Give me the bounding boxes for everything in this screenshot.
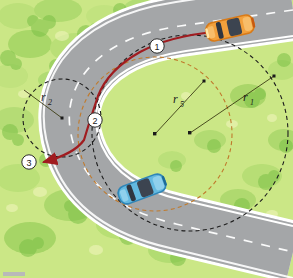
marker-1: 1: [150, 39, 164, 53]
road-radii-figure: r 1 r 5 r 2 1 2 3: [0, 0, 293, 278]
radius-label-r1-subscript: 1: [250, 98, 254, 107]
radius-label-r5-letter: r: [173, 92, 178, 106]
marker-1-label: 1: [154, 42, 159, 52]
marker-2: 2: [88, 113, 102, 127]
marker-3: 3: [22, 155, 36, 169]
marker-2-label: 2: [92, 116, 97, 126]
figure-canvas: r 1 r 5 r 2 1 2 3: [0, 0, 293, 278]
radius-label-r2-subscript: 2: [48, 98, 52, 107]
radius-label-r2-letter: r: [41, 90, 46, 104]
image-credit-bar: [3, 272, 25, 276]
radius-label-r5-subscript: 5: [180, 100, 184, 109]
radius-label-r1-letter: r: [243, 90, 248, 104]
marker-3-label: 3: [26, 158, 31, 168]
